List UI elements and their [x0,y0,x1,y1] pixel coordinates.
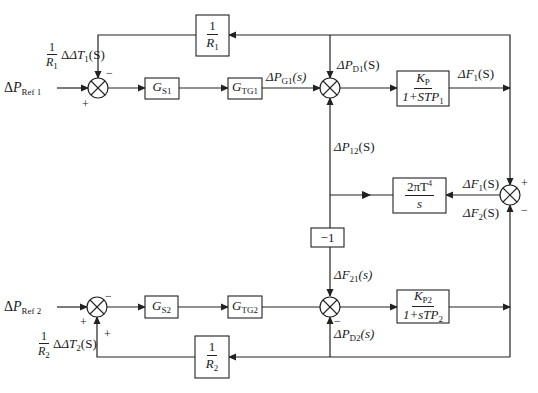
sum-junction-area2-input [87,297,107,317]
label-pd1: ΔPD1(S) [337,58,379,74]
sign-sum3-bottom: + [104,327,111,342]
label-pref2: ΔPRef 2 [4,300,41,316]
droop-block-area2: 1R2 [195,336,229,378]
label-f1: ΔF1(S) [458,67,494,83]
sign-sum3-top: − [105,289,112,304]
governor-block-area1: GS1 [145,78,179,99]
power-system-block-area1: KP1+STP1 [397,71,449,106]
sum-junction-area1-load [320,78,340,98]
label-f1-at-sum: ΔF1(S) [463,177,499,193]
sign-sum-right-bottom: − [521,203,528,218]
sum-junction-frequency-difference [500,185,520,205]
turbine-block-area1: GTG1 [228,78,262,99]
label-feedback-area1: 1R1 ΔΔT1(S) [46,41,105,71]
sum-junction-area1-input [88,78,108,98]
droop-block-area1: 1R1 [196,15,229,56]
label-pg1: ΔPG1(s) [266,70,306,86]
label-pd2: ΔPD2(s) [334,327,374,343]
label-feedback-area2: 1R2 ΔΔT2(S) [38,330,97,360]
label-f2-at-sum: ΔF2(S) [463,206,499,222]
governor-block-area2: GS2 [145,296,178,318]
sign-sum1-top: − [106,66,113,81]
sign-sum3-left: + [80,315,87,330]
turbine-block-area2: GTG2 [228,296,262,318]
label-f21: ΔF21(s) [334,268,372,284]
sign-sum1-left: + [82,97,89,112]
label-p12: ΔP12(S) [334,140,374,156]
negation-block: −1 [311,228,344,247]
tie-line-block: 2πT4s [393,178,446,213]
sign-sum-right-top: + [521,176,528,191]
label-pref1: ΔPRef 1 [4,81,41,97]
power-system-block-area2: KP21+sTP2 [397,290,449,323]
